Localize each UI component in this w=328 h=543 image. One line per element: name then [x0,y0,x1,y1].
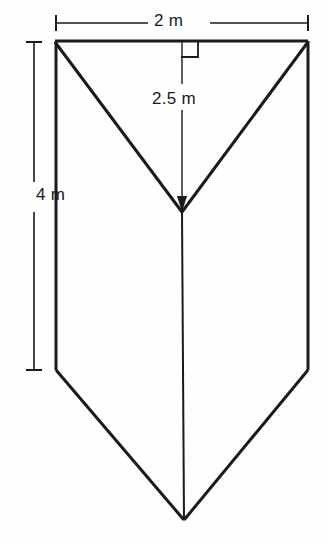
label-top-width: 2 m [154,12,183,29]
front-v-right-slant [182,42,308,212]
label-depth: 2.5 m [152,90,196,107]
dimension-side-height [24,42,46,370]
front-v-left-slant [55,42,182,212]
prism-diagram-svg [0,0,328,543]
right-angle-square [182,41,198,57]
valley-fold-line [182,212,184,520]
label-side-height: 4 m [36,186,65,203]
right-angle-icon [182,41,198,57]
back-v-left-slant [56,370,184,520]
dimension-depth [146,41,220,212]
figure-container: 2 m 2.5 m 4 m [0,0,328,543]
back-v-right-slant [184,370,308,520]
